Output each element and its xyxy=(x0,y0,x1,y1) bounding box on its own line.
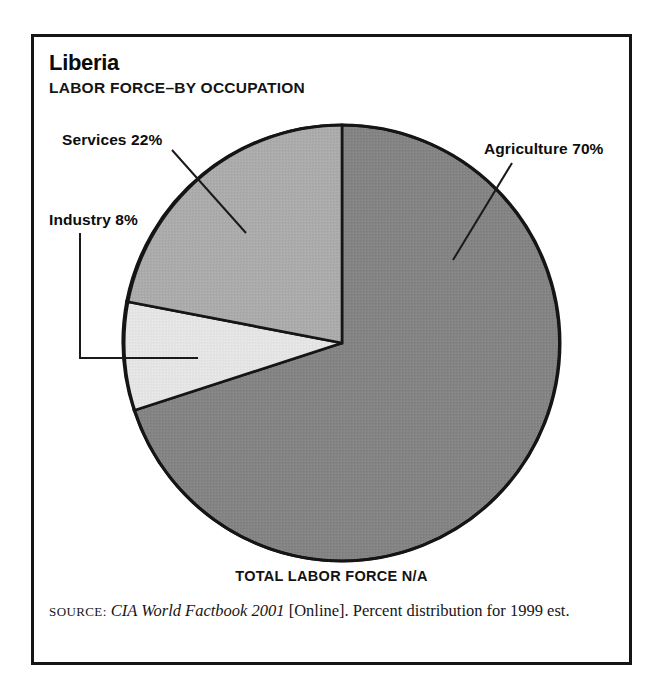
source-rest: [Online]. Percent distribution for 1999 … xyxy=(285,601,570,620)
slice-label-agriculture: Agriculture 70% xyxy=(484,141,604,157)
chart-subtitle: LABOR FORCE–BY OCCUPATION xyxy=(49,80,305,96)
source-prefix: SOURCE: xyxy=(49,604,107,619)
page-title: Liberia xyxy=(49,52,119,74)
source-note: SOURCE: CIA World Factbook 2001 [Online]… xyxy=(49,600,615,622)
figure-panel: Liberia LABOR FORCE–BY OCCUPATION xyxy=(0,0,661,697)
slice-label-industry: Industry 8% xyxy=(49,212,138,228)
total-labor-force-label: TOTAL LABOR FORCE N/A xyxy=(31,568,632,584)
slice-label-services: Services 22% xyxy=(62,132,162,148)
source-title: CIA World Factbook 2001 xyxy=(111,601,285,620)
